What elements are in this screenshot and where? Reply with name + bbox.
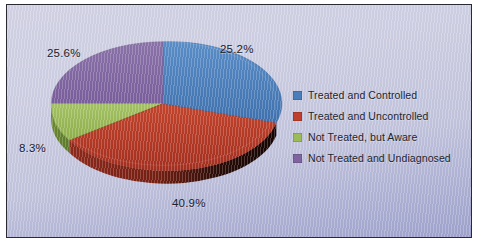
legend-label-not-treated-but-aware: Not Treated, but Aware: [308, 131, 417, 143]
legend-swatch-icon-purple: [293, 154, 302, 163]
pie-label-not-treated-and-undiagnosed: 25.6%: [47, 47, 81, 59]
legend-item-treated-and-controlled[interactable]: Treated and Controlled: [293, 89, 451, 101]
legend-swatch-icon-blue: [293, 91, 302, 100]
legend-item-not-treated-but-aware[interactable]: Not Treated, but Aware: [293, 131, 451, 143]
chart-legend: Treated and Controlled Treated and Uncon…: [293, 89, 451, 164]
pie-label-treated-and-controlled: 25.2%: [220, 43, 254, 55]
legend-label-treated-and-uncontrolled: Treated and Uncontrolled: [308, 110, 429, 122]
legend-swatch-icon-green: [293, 133, 302, 142]
legend-swatch-icon-red: [293, 112, 302, 121]
pie-label-not-treated-but-aware: 8.3%: [19, 142, 46, 154]
legend-label-not-treated-and-undiagnosed: Not Treated and Undiagnosed: [308, 152, 451, 164]
chart-frame: 25.2% 25.6% 8.3% 40.9% Treated and Contr…: [6, 4, 472, 238]
legend-label-treated-and-controlled: Treated and Controlled: [308, 89, 417, 101]
pie-label-treated-and-uncontrolled: 40.9%: [172, 197, 206, 209]
legend-item-treated-and-uncontrolled[interactable]: Treated and Uncontrolled: [293, 110, 451, 122]
legend-item-not-treated-and-undiagnosed[interactable]: Not Treated and Undiagnosed: [293, 152, 451, 164]
